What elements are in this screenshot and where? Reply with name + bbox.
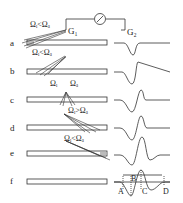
waveform-e <box>114 137 170 165</box>
annotation-a: Ωᵢ<Ωₐ <box>30 20 51 29</box>
waveform-b <box>114 62 170 84</box>
row-label-e: e <box>10 148 14 158</box>
point-d: D <box>163 187 169 196</box>
diagram: G₁ G₂ a b c d e f Ωᵢ<Ωₐ Ωᵢ<Ωₐ Ωᵢ Ωₐ Ωᵢ>Ω… <box>0 0 183 203</box>
point-b: B <box>131 174 136 183</box>
g2-label: G₂ <box>127 27 137 37</box>
row-label-a: a <box>10 38 14 48</box>
row-label-d: d <box>10 123 15 133</box>
point-a: A <box>118 187 124 196</box>
row-label-b: b <box>10 66 15 76</box>
waveform-d <box>114 116 170 140</box>
annotation-c-right: Ωₐ <box>70 79 79 88</box>
annotation-b: Ωᵢ<Ωₐ <box>32 48 53 57</box>
annotation-d: Ωᵢ>Ωₐ <box>68 106 89 115</box>
point-c: C <box>142 187 147 196</box>
waveform-a <box>114 43 170 55</box>
row-label-c: c <box>10 95 14 105</box>
annotation-e: Ωᵢ<Ωₐ <box>64 134 85 143</box>
waveform-c <box>114 90 170 112</box>
g1-label: G₁ <box>68 26 78 36</box>
annotation-c-left: Ωᵢ <box>50 79 58 88</box>
nerve-bar-f <box>27 179 107 184</box>
depolarized-region-e <box>100 152 106 155</box>
row-label-f: f <box>10 176 13 186</box>
